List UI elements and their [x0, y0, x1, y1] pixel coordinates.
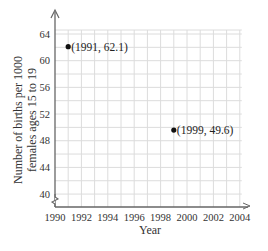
x-tick-label: 2002 [203, 212, 224, 223]
y-tick-label: 64 [40, 29, 51, 40]
x-tick-label: 1990 [45, 212, 66, 223]
x-tick-label: 1992 [71, 212, 92, 223]
axis-break-icon [52, 194, 58, 207]
y-axis-label: Number of births per 1000 females ages 1… [11, 56, 39, 184]
y-tick-label: 56 [40, 82, 51, 93]
data-point-label: (1991, 62.1) [71, 41, 128, 54]
y-tick-label: 60 [40, 55, 51, 66]
y-axis-label-line-1: Number of births per 1000 [11, 56, 25, 184]
data-points: (1991, 62.1)(1999, 49.6) [66, 41, 234, 137]
x-tick-labels: 19901992199419961998200020022004 [45, 212, 252, 223]
y-tick-label: 44 [40, 162, 51, 173]
y-axis-label-line-2: females ages 15 to 19 [25, 68, 39, 172]
grid-lines [55, 30, 242, 207]
x-tick-label: 2000 [177, 212, 198, 223]
y-tick-labels: 40444852566064 [40, 29, 51, 200]
y-tick-label: 40 [40, 189, 51, 200]
x-tick-label: 1996 [124, 212, 145, 223]
chart: 19901992199419961998200020022004 4044485… [0, 0, 268, 251]
data-point-label: (1999, 49.6) [177, 124, 234, 137]
y-tick-label: 52 [40, 109, 51, 120]
x-axis-label: Year [139, 223, 161, 237]
x-tick-label: 2004 [229, 212, 251, 223]
data-point [66, 44, 71, 49]
x-tick-label: 1994 [97, 212, 119, 223]
data-point [171, 127, 176, 132]
x-axis-arrow-icon [243, 203, 250, 209]
y-tick-label: 48 [40, 135, 51, 146]
x-tick-label: 1998 [150, 212, 171, 223]
